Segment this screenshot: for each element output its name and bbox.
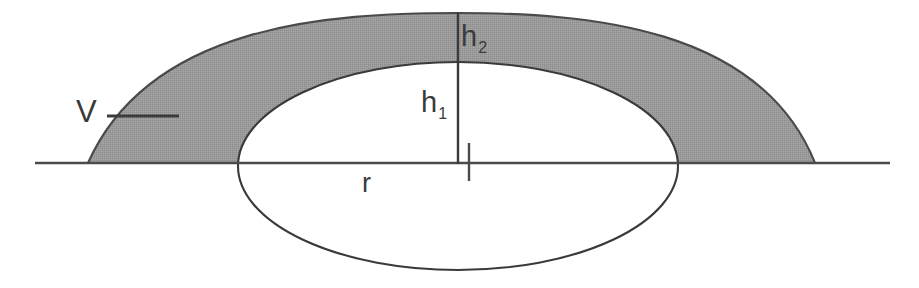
label-height-inner-base: h	[421, 86, 437, 118]
diagram-canvas: V h2 h1 r	[0, 0, 919, 288]
label-radius-text: r	[362, 168, 371, 198]
label-height-inner-subscript: 1	[438, 105, 447, 122]
label-volume-text: V	[76, 94, 97, 129]
label-height-outer-base: h	[461, 20, 477, 52]
label-height-outer-subscript: 2	[478, 39, 487, 56]
label-volume: V	[76, 96, 97, 127]
label-height-inner: h1	[421, 88, 446, 117]
label-height-outer: h2	[461, 22, 486, 51]
diagram-vector-graphic	[0, 0, 919, 288]
label-radius: r	[362, 170, 371, 197]
shaded-volume-region	[0, 0, 919, 288]
